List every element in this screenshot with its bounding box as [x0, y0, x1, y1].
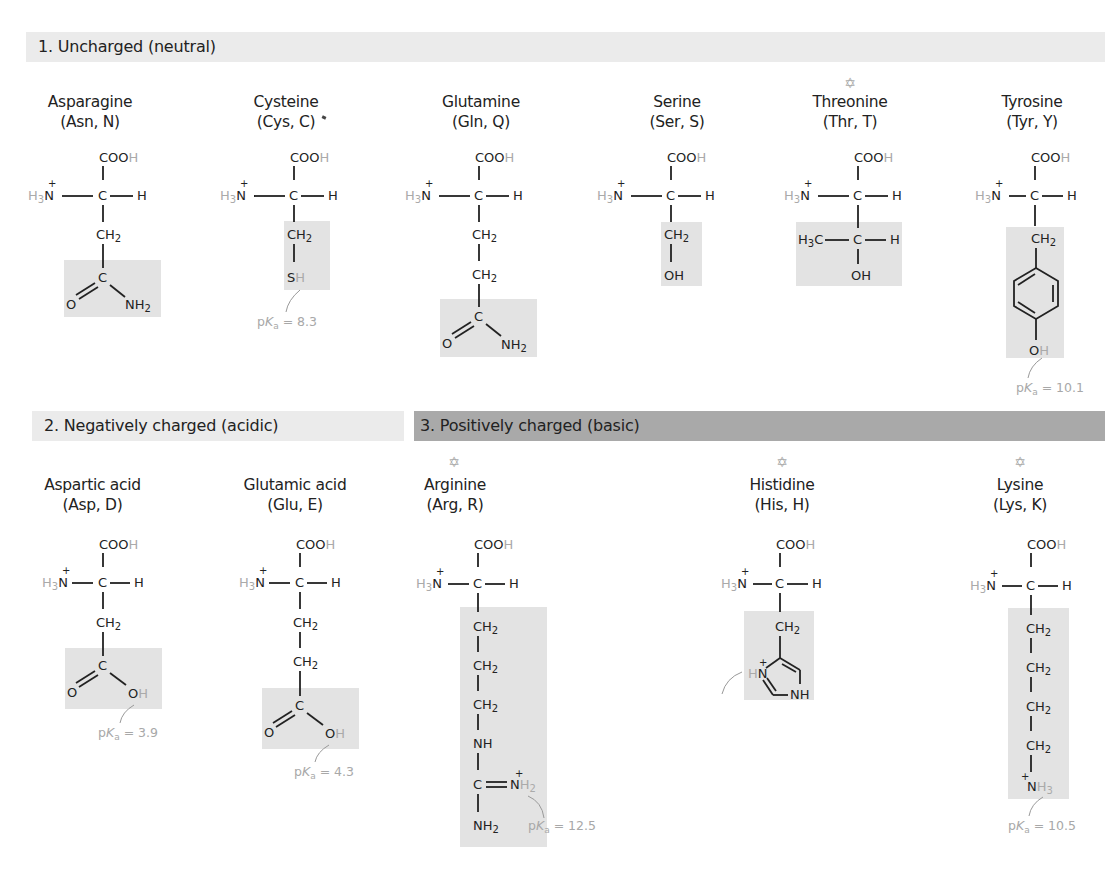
svg-text:H3N: H3N — [975, 188, 1001, 205]
structure-arginine: COOH H3N + C H CH2 CH2 CH2 NH C NH2 + NH… — [410, 500, 610, 882]
svg-text:+: + — [741, 566, 749, 577]
svg-text:CH2: CH2 — [293, 615, 318, 632]
svg-text:OH: OH — [325, 726, 345, 741]
svg-text:OH: OH — [1029, 343, 1049, 358]
svg-text:H: H — [812, 576, 822, 591]
svg-text:H: H — [331, 575, 341, 590]
structure-asparagine: COOH H3N + C H CH2 C O NH2 — [0, 0, 200, 340]
svg-text:H: H — [513, 188, 523, 203]
svg-text:NH: NH — [473, 736, 493, 751]
svg-text:H: H — [1062, 578, 1072, 593]
structure-cysteine: COOH H3N + C H CH2 SH pKa = 8.3 — [196, 0, 396, 340]
svg-text:COOH: COOH — [854, 150, 893, 165]
svg-text:CH2: CH2 — [472, 227, 497, 244]
svg-text:C: C — [289, 188, 298, 203]
svg-text:H3N: H3N — [28, 188, 54, 205]
svg-text:+: + — [259, 565, 267, 576]
essential-star-icon: ✡ — [774, 455, 790, 469]
svg-text:COOH: COOH — [776, 537, 815, 552]
svg-text:H: H — [705, 188, 715, 203]
structure-glutamic-acid: COOH H3N + C H CH2 CH2 C O OH pKa = 4.3 — [196, 380, 396, 780]
structure-tyrosine: COOH H3N + C H CH2 OH pKa = 10.1 — [960, 0, 1105, 410]
svg-text:+: + — [617, 178, 625, 189]
structure-glutamine: COOH H3N + C H CH2 CH2 C O NH2 — [396, 0, 596, 370]
svg-text:SH: SH — [287, 270, 305, 285]
svg-text:C: C — [473, 777, 482, 792]
svg-text:COOH: COOH — [667, 150, 706, 165]
svg-text:H3N: H3N — [784, 188, 810, 205]
svg-text:H3N: H3N — [721, 576, 747, 593]
svg-text:C: C — [853, 232, 862, 247]
svg-text:C: C — [1026, 578, 1035, 593]
svg-text:+: + — [995, 178, 1003, 189]
essential-star-icon: ✡ — [446, 455, 462, 469]
structure-aspartic-acid: COOH H3N + C H CH2 C O OH pKa = 3.9 — [0, 380, 200, 780]
svg-text:CH2: CH2 — [96, 615, 121, 632]
svg-text:H: H — [1067, 188, 1077, 203]
svg-text:+: + — [436, 566, 444, 577]
svg-text:C: C — [473, 576, 482, 591]
svg-text:+: + — [48, 178, 56, 189]
svg-text:C: C — [853, 188, 862, 203]
svg-text:H3N: H3N — [220, 188, 246, 205]
svg-text:COOH: COOH — [1031, 150, 1070, 165]
svg-text:H: H — [134, 575, 144, 590]
section-header-positive: 3. Positively charged (basic) — [414, 411, 1105, 441]
svg-text:C: C — [775, 576, 784, 591]
svg-text:pKa = 4.3: pKa = 4.3 — [294, 764, 354, 780]
svg-text:C: C — [98, 575, 107, 590]
svg-text:COOH: COOH — [474, 537, 513, 552]
svg-text:CH2: CH2 — [472, 267, 497, 284]
svg-text:OH: OH — [128, 686, 148, 701]
svg-text:COOH: COOH — [296, 537, 335, 552]
svg-text:COOH: COOH — [99, 150, 138, 165]
svg-text:C: C — [474, 309, 483, 324]
svg-text:C: C — [295, 698, 304, 713]
essential-star-icon: ✡ — [1012, 455, 1028, 469]
svg-text:H: H — [890, 232, 900, 247]
svg-text:COOH: COOH — [1027, 537, 1066, 552]
svg-text:pKa = 12.5: pKa = 12.5 — [528, 818, 596, 835]
svg-text:+: + — [62, 565, 70, 576]
svg-text:H3N: H3N — [42, 575, 68, 592]
svg-text:O: O — [442, 336, 452, 351]
section-title: 3. Positively charged (basic) — [420, 416, 640, 435]
svg-text:O: O — [67, 685, 77, 700]
svg-text:COOH: COOH — [475, 150, 514, 165]
svg-text:C: C — [98, 270, 107, 285]
svg-text:pKa = 10.1: pKa = 10.1 — [1016, 380, 1084, 397]
svg-text:O: O — [66, 297, 76, 312]
svg-text:C: C — [295, 575, 304, 590]
svg-text:+: + — [240, 178, 248, 189]
svg-text:+: + — [990, 568, 998, 579]
svg-text:H3N: H3N — [416, 576, 442, 593]
svg-text:COOH: COOH — [99, 537, 138, 552]
structure-histidine: COOH H3N + C H CH2 HN + NH pKa = 6.0 — [660, 500, 860, 700]
svg-text:C: C — [474, 188, 483, 203]
svg-text:H: H — [328, 188, 338, 203]
svg-text:CH2: CH2 — [293, 654, 318, 671]
svg-text:C: C — [1030, 188, 1039, 203]
svg-text:H: H — [509, 576, 519, 591]
svg-text:+: + — [759, 657, 767, 668]
structure-lysine: COOH H3N + C H CH2 CH2 CH2 CH2 + NH3 pKa… — [940, 500, 1105, 840]
svg-text:pKa = 8.3: pKa = 8.3 — [257, 314, 317, 331]
svg-text:OH: OH — [851, 268, 871, 283]
svg-text:C: C — [666, 188, 675, 203]
svg-text:HN: HN — [748, 666, 768, 681]
svg-text:C: C — [98, 188, 107, 203]
svg-text:C: C — [98, 658, 107, 673]
svg-text:CH2: CH2 — [96, 227, 121, 244]
svg-text:H: H — [892, 188, 902, 203]
svg-text:pKa = 3.9: pKa = 3.9 — [98, 725, 158, 742]
svg-text:+: + — [425, 178, 433, 189]
svg-text:H3N: H3N — [970, 578, 996, 595]
structure-serine: COOH H3N + C H CH2 OH — [596, 0, 796, 340]
svg-text:H3N: H3N — [239, 575, 265, 592]
svg-text:O: O — [264, 725, 274, 740]
svg-text:H3N: H3N — [597, 188, 623, 205]
svg-text:pKa = 6.0: pKa = 6.0 — [668, 698, 728, 700]
svg-text:NH: NH — [790, 687, 810, 700]
svg-text:pKa = 10.5: pKa = 10.5 — [1008, 818, 1076, 835]
svg-text:COOH: COOH — [290, 150, 329, 165]
